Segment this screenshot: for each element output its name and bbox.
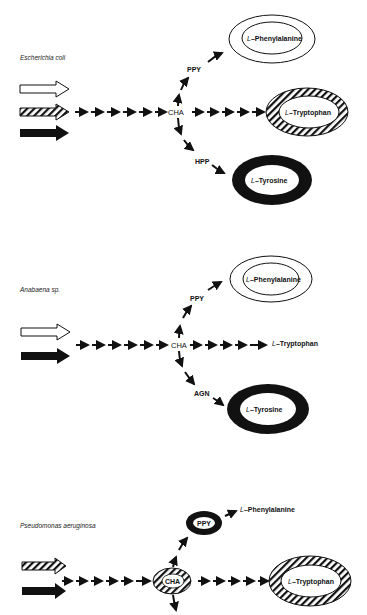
arrow-to-ppy [179,282,221,338]
hatched-arrow-icon [20,104,69,120]
svg-text:L–Tyrosine: L–Tyrosine [251,177,288,185]
product-tryptophan: L–Tryptophan [272,340,318,348]
product-tryptophan: L–Tryptophan [266,88,348,136]
solid-arrow-icon [20,125,69,141]
product-phenylalanine: L–Phenylalanine [230,256,312,302]
solid-arrow-icon [22,583,66,599]
svg-text:L–Tryptophan: L–Tryptophan [288,578,334,586]
intermediate-agn: AGN [194,390,210,397]
intermediate-ppy: PPY [190,295,204,302]
svg-text:L–Phenylalanine: L–Phenylalanine [247,35,302,43]
arrow-down-truncated [173,595,176,610]
svg-text:L–Phenylalanine: L–Phenylalanine [246,276,301,284]
arrow-to-ppy [178,53,222,106]
intermediate-hpp: HPP [195,158,210,165]
panel-anabaena: Anabaena sp. CHA PPY L–Phenylalanine L–T… [19,256,318,434]
open-arrow-icon [21,324,70,340]
organism-label: Escherichia coli [20,54,66,61]
arrow-to-ppy [173,538,187,567]
branch-point-cha: CHA [171,341,187,350]
product-phenylalanine: L–Phenylalanine [229,15,315,63]
solid-arrow-icon [21,348,70,364]
product-phenylalanine: L–Phenylalanine [240,506,295,514]
svg-text:L–Tryptophan: L–Tryptophan [285,109,331,117]
intermediate-ppy: PPY [187,66,201,73]
svg-text:CHA: CHA [165,578,180,585]
svg-text:L–Tyrosine: L–Tyrosine [246,406,283,414]
branch-point-cha: CHA [153,568,191,594]
panel-pseudomonas-aeruginosa: Pseudomonas aeruginosa CHA PPY L–Phenyla… [20,506,351,610]
intermediate-ppy: PPY [186,511,222,535]
arrow-to-phenylalanine [225,511,236,516]
branch-point-cha: CHA [168,108,184,117]
product-tryptophan: L–Tryptophan [269,556,351,606]
organism-label: Pseudomonas aeruginosa [20,522,96,530]
svg-text:PPY: PPY [197,520,211,527]
organism-label: Anabaena sp. [19,286,60,294]
pathway-diagram: Escherichia coli CHA PPY L–Phenylalanine [0,0,367,615]
product-tyrosine: L–Tyrosine [232,155,312,205]
open-arrow-icon [20,81,69,97]
product-tyrosine: L–Tyrosine [227,384,309,434]
hatched-arrow-icon [22,558,66,574]
panel-escherichia-coli: Escherichia coli CHA PPY L–Phenylalanine [20,15,348,205]
